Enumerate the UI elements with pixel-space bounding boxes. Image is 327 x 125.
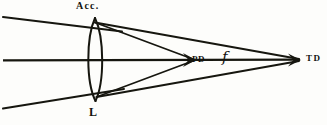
- focal-length-symbol: f: [222, 50, 228, 65]
- primary-distance-label: PD: [192, 55, 205, 64]
- true-distance-label: TD: [306, 54, 321, 63]
- lower-ray-to-primary-point: [97, 61, 195, 98]
- lower-ray-to-true-distance: [97, 61, 300, 97]
- upper-ray-to-primary-point: [95, 23, 194, 60]
- lens-label: L: [89, 106, 98, 118]
- aperture-label: Acc.: [76, 1, 99, 11]
- optics-ray-diagram: [0, 0, 327, 125]
- ray-diagram-figure: Acc. L PD f TD: [0, 0, 327, 125]
- lower-incoming-ray: [3, 89, 124, 109]
- optical-axis: [3, 60, 300, 61]
